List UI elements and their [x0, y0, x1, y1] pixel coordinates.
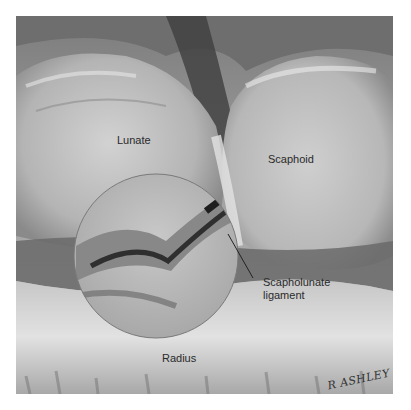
wrist-illustration — [16, 16, 393, 394]
label-scaphoid: Scaphoid — [268, 153, 314, 165]
label-ligament-1: Scapholunate — [263, 276, 330, 288]
illustration-plate: Lunate Scaphoid Scapholunate ligament Ra… — [16, 16, 393, 394]
label-lunate: Lunate — [117, 134, 151, 146]
label-radius: Radius — [162, 352, 196, 364]
label-ligament-2: ligament — [263, 289, 305, 301]
